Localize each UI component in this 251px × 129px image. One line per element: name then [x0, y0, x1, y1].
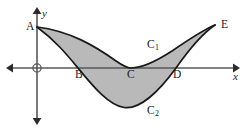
curve-label-c1-subscript: 1 — [155, 43, 159, 52]
curve-label-c2: C2 — [147, 105, 159, 118]
point-label-d: D — [173, 69, 181, 81]
curve-label-c2-subscript: 2 — [155, 109, 159, 118]
x-axis-arrow-left — [6, 63, 13, 72]
point-label-a: A — [26, 21, 34, 33]
curve-label-c1-base: C — [147, 38, 155, 50]
x-axis-label: x — [233, 71, 238, 82]
curve-label-c1: C1 — [147, 39, 159, 52]
curve-label-c2-base: C — [147, 104, 155, 116]
figure-canvas — [0, 0, 251, 129]
point-label-b: B — [75, 69, 83, 81]
y-axis-label: y — [42, 8, 47, 19]
point-label-c: C — [127, 69, 135, 81]
y-axis-arrow-up — [33, 7, 42, 14]
figure-container: A B C D E C1 C2 x y — [0, 0, 251, 129]
point-label-e: E — [221, 19, 228, 31]
y-axis-arrow-down — [33, 118, 42, 125]
